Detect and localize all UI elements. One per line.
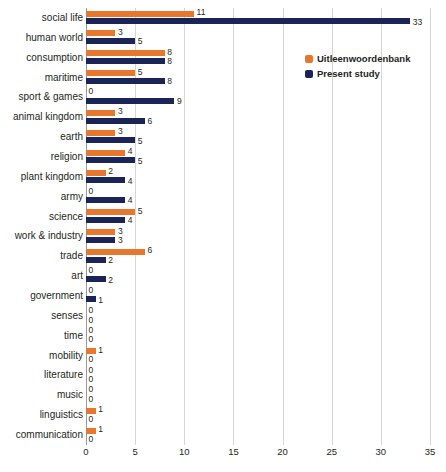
- bar-value-label: 4: [128, 147, 133, 156]
- bar-value-label: 3: [118, 127, 123, 136]
- bar-present-study: [86, 217, 125, 223]
- bar-uitleenwoordenbank: [86, 249, 145, 255]
- legend-swatch-icon: [305, 70, 313, 78]
- bar-value-label: 5: [138, 137, 143, 146]
- bar-row: 36: [86, 107, 430, 127]
- bar-row: 35: [86, 28, 430, 48]
- bar-present-study: [86, 18, 410, 24]
- legend-label: Uitleenwoordenbank: [317, 54, 410, 64]
- category-label: plant kingdom: [0, 172, 83, 182]
- bar-row: 1133: [86, 8, 430, 28]
- bar-uitleenwoordenbank: [86, 408, 96, 414]
- bar-value-label: 3: [118, 227, 123, 236]
- bar-present-study: [86, 98, 174, 104]
- bar-present-study: [86, 177, 125, 183]
- bar-value-label: 8: [167, 77, 172, 86]
- category-label: linguistics: [0, 410, 83, 420]
- bar-uitleenwoordenbank: [86, 130, 115, 136]
- bar-value-label: 0: [89, 366, 94, 375]
- bar-value-label: 0: [89, 316, 94, 325]
- bar-value-label: 1: [98, 405, 103, 414]
- x-tick-label: 25: [326, 447, 337, 457]
- category-label: earth: [0, 132, 83, 142]
- chart-legend: UitleenwoordenbankPresent study: [305, 52, 410, 82]
- category-label: mobility: [0, 351, 83, 361]
- bar-value-label: 8: [167, 57, 172, 66]
- bar-value-label: 1: [98, 346, 103, 355]
- bar-present-study: [86, 118, 145, 124]
- bar-row: 02: [86, 266, 430, 286]
- category-label: science: [0, 212, 83, 222]
- bar-present-study: [86, 197, 125, 203]
- legend-label: Present study: [317, 69, 380, 79]
- bar-row: 10: [86, 405, 430, 425]
- bar-row: 09: [86, 87, 430, 107]
- bar-value-label: 5: [138, 68, 143, 77]
- category-label: government: [0, 291, 83, 301]
- category-label: work & industry: [0, 231, 83, 241]
- bar-present-study: [86, 276, 106, 282]
- bar-value-label: 0: [89, 306, 94, 315]
- bar-value-label: 4: [128, 196, 133, 205]
- x-tick-label: 0: [83, 447, 88, 457]
- category-label: consumption: [0, 53, 83, 63]
- bar-value-label: 0: [89, 286, 94, 295]
- bar-present-study: [86, 38, 135, 44]
- bar-value-label: 11: [197, 8, 206, 17]
- bar-value-label: 3: [118, 236, 123, 245]
- bar-value-label: 0: [89, 375, 94, 384]
- bar-value-label: 0: [89, 266, 94, 275]
- bar-value-label: 0: [89, 415, 94, 424]
- bar-value-label: 9: [177, 97, 182, 106]
- bar-value-label: 0: [89, 395, 94, 404]
- bar-value-label: 6: [147, 117, 152, 126]
- bar-value-label: 0: [89, 187, 94, 196]
- category-label: literature: [0, 370, 83, 380]
- category-label: human world: [0, 33, 83, 43]
- bar-value-label: 2: [108, 276, 113, 285]
- bar-value-label: 5: [138, 207, 143, 216]
- bar-row: 24: [86, 167, 430, 187]
- bar-present-study: [86, 137, 135, 143]
- bar-row: 00: [86, 326, 430, 346]
- legend-item[interactable]: Present study: [305, 67, 410, 80]
- bar-present-study: [86, 257, 106, 263]
- bar-value-label: 2: [108, 256, 113, 265]
- category-label: religion: [0, 152, 83, 162]
- x-tick-label: 20: [277, 447, 288, 457]
- bar-present-study: [86, 78, 165, 84]
- bar-uitleenwoordenbank: [86, 110, 115, 116]
- x-tick-label: 30: [376, 447, 387, 457]
- category-label: time: [0, 331, 83, 341]
- bar-row: 10: [86, 425, 430, 445]
- bar-row: 01: [86, 286, 430, 306]
- bar-uitleenwoordenbank: [86, 170, 106, 176]
- bar-value-label: 5: [138, 37, 143, 46]
- x-tick-label: 35: [425, 447, 436, 457]
- bar-value-label: 1: [98, 296, 103, 305]
- legend-swatch-icon: [305, 55, 313, 63]
- bar-present-study: [86, 296, 96, 302]
- bar-row: 33: [86, 227, 430, 247]
- bar-row: 10: [86, 346, 430, 366]
- bar-present-study: [86, 237, 115, 243]
- bar-row: 00: [86, 306, 430, 326]
- category-label: communication: [0, 430, 83, 440]
- category-label: social life: [0, 13, 83, 23]
- bar-row: 00: [86, 385, 430, 405]
- gridline-35: [430, 8, 431, 445]
- category-label: maritime: [0, 73, 83, 83]
- category-label: music: [0, 390, 83, 400]
- bar-value-label: 3: [118, 28, 123, 37]
- bar-uitleenwoordenbank: [86, 30, 115, 36]
- x-axis-tick-labels: 05101520253035: [86, 447, 430, 463]
- bar-uitleenwoordenbank: [86, 150, 125, 156]
- bar-present-study: [86, 157, 135, 163]
- bar-value-label: 2: [108, 167, 113, 176]
- bar-value-label: 0: [89, 335, 94, 344]
- legend-item[interactable]: Uitleenwoordenbank: [305, 52, 410, 65]
- category-label: army: [0, 192, 83, 202]
- category-label: art: [0, 271, 83, 281]
- bar-value-label: 5: [138, 157, 143, 166]
- bar-value-label: 0: [89, 326, 94, 335]
